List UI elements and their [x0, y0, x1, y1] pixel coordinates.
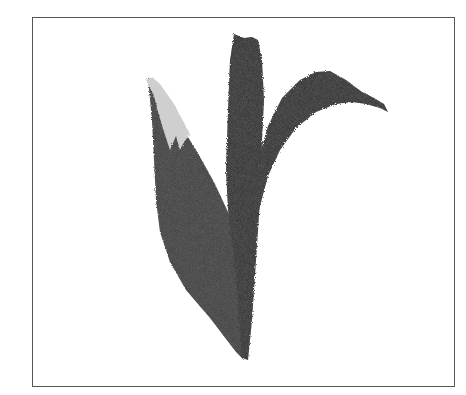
right-leaf — [252, 71, 388, 230]
plant-painting — [0, 0, 466, 395]
